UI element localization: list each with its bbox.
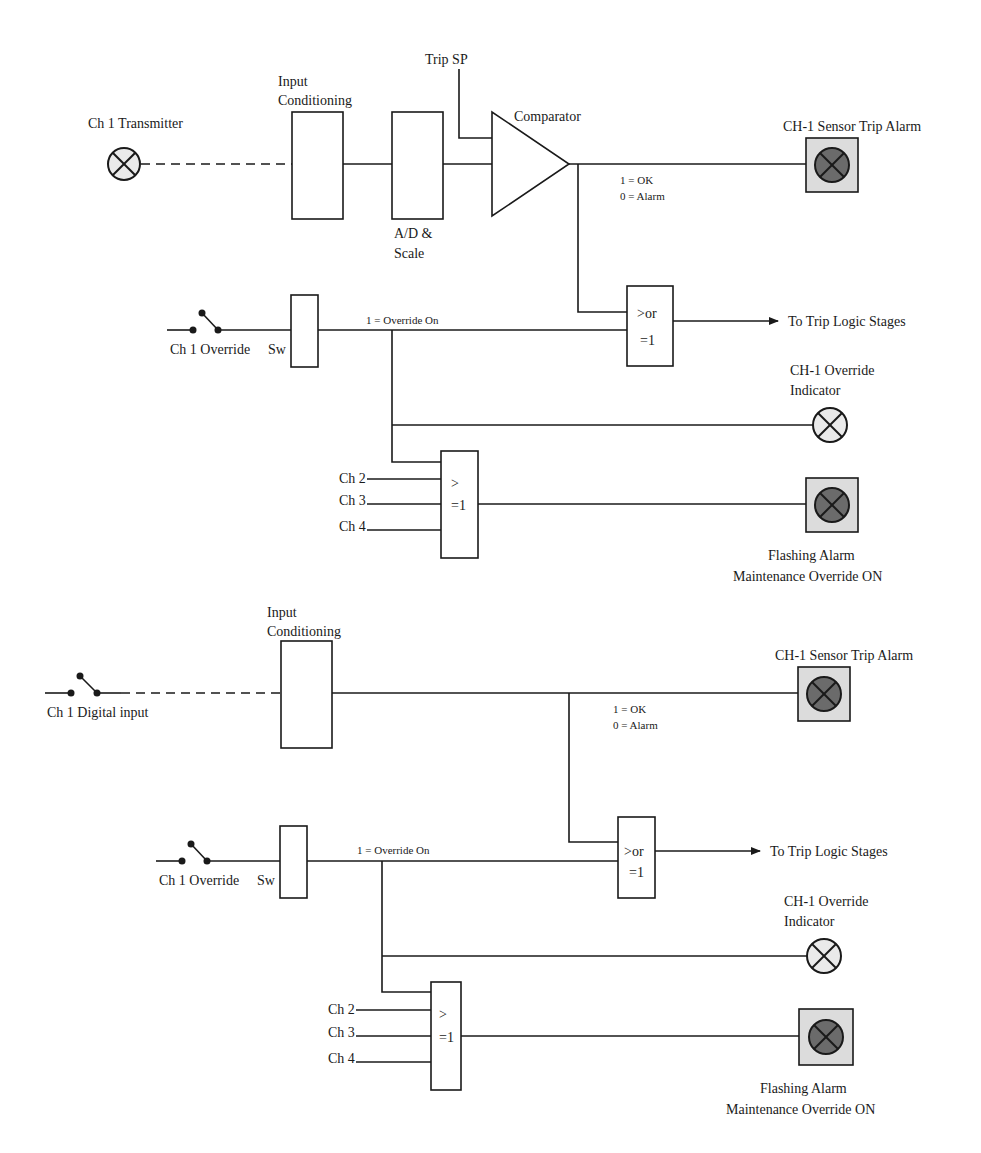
ge-gate-label-2: =1 — [451, 498, 466, 513]
channel-3-label: Ch 3 — [339, 493, 366, 508]
trip-sp-label: Trip SP — [425, 52, 468, 67]
digital-channel-diagram: Ch 1 Digital input Input Conditioning CH… — [45, 605, 913, 1117]
channel-4-label: Ch 4 — [339, 519, 366, 534]
channel-2-label: Ch 2 — [339, 471, 366, 486]
status-alarm-label: 0 = Alarm — [613, 719, 658, 731]
override-on-label: 1 = Override On — [357, 844, 430, 856]
sensor-trip-alarm-label: CH-1 Sensor Trip Alarm — [775, 648, 913, 663]
input-conditioning-label-1: Input — [278, 74, 308, 89]
flashing-alarm-label-1: Flashing Alarm — [760, 1081, 847, 1096]
or-gate-label-1: >or — [637, 306, 657, 321]
ad-scale-block — [392, 112, 443, 219]
override-switch-label: Ch 1 Override — [170, 342, 250, 357]
comparator-symbol — [492, 112, 569, 216]
trip-output-label: To Trip Logic Stages — [788, 314, 906, 329]
sw-label: Sw — [257, 873, 276, 888]
sensor-trip-alarm-lamp — [798, 667, 850, 721]
override-on-label: 1 = Override On — [366, 314, 439, 326]
flashing-alarm-label-1: Flashing Alarm — [768, 548, 855, 563]
ge-gate-label-1: > — [451, 476, 459, 491]
channel-2-label: Ch 2 — [328, 1002, 355, 1017]
or-gate-label-1: >or — [624, 844, 644, 859]
digital-input-label: Ch 1 Digital input — [47, 705, 149, 720]
channel-3-label: Ch 3 — [328, 1025, 355, 1040]
override-indicator-lamp — [813, 408, 847, 442]
override-switch-block — [291, 295, 318, 367]
override-indicator-label-2: Indicator — [784, 914, 835, 929]
analog-channel-diagram: Ch 1 Transmitter Input Conditioning A/D … — [88, 52, 921, 584]
status-ok-label: 1 = OK — [620, 174, 653, 186]
or-gate-label-2: =1 — [640, 333, 655, 348]
override-switch-block — [280, 826, 307, 898]
override-switch-label: Ch 1 Override — [159, 873, 239, 888]
status-alarm-label: 0 = Alarm — [620, 190, 665, 202]
or-gate-label-2: =1 — [629, 865, 644, 880]
sensor-trip-alarm-lamp — [806, 138, 858, 192]
input-conditioning-block — [292, 112, 343, 219]
input-conditioning-block — [281, 641, 332, 748]
sw-label: Sw — [268, 342, 287, 357]
override-indicator-label-1: CH-1 Override — [784, 894, 868, 909]
ad-scale-label-1: A/D & — [394, 226, 433, 241]
override-switch-icon[interactable] — [167, 310, 222, 334]
channel-4-label: Ch 4 — [328, 1051, 355, 1066]
input-conditioning-label-1: Input — [267, 605, 297, 620]
status-ok-label: 1 = OK — [613, 703, 646, 715]
flashing-alarm-label-2: Maintenance Override ON — [733, 569, 882, 584]
override-indicator-lamp — [807, 939, 841, 973]
flashing-alarm-lamp — [806, 478, 858, 532]
comparator-label: Comparator — [514, 109, 581, 124]
ge-gate-label-2: =1 — [439, 1030, 454, 1045]
transmitter-icon — [108, 148, 140, 180]
input-conditioning-label-2: Conditioning — [267, 624, 341, 639]
or-gate — [627, 286, 673, 366]
sensor-trip-alarm-label: CH-1 Sensor Trip Alarm — [783, 119, 921, 134]
trip-logic-diagram: Ch 1 Transmitter Input Conditioning A/D … — [0, 0, 981, 1153]
transmitter-label: Ch 1 Transmitter — [88, 116, 183, 131]
trip-output-label: To Trip Logic Stages — [770, 844, 888, 859]
flashing-alarm-label-2: Maintenance Override ON — [726, 1102, 875, 1117]
flashing-alarm-lamp — [799, 1009, 853, 1065]
input-conditioning-label-2: Conditioning — [278, 93, 352, 108]
ad-scale-label-2: Scale — [394, 246, 424, 261]
override-indicator-label-1: CH-1 Override — [790, 363, 874, 378]
override-switch-icon[interactable] — [156, 841, 211, 865]
override-indicator-label-2: Indicator — [790, 383, 841, 398]
digital-input-switch-icon[interactable] — [45, 673, 121, 697]
ge-gate-label-1: > — [439, 1007, 447, 1022]
